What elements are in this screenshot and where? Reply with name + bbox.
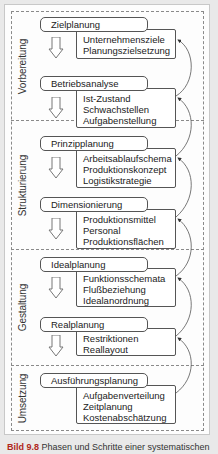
down-arrow-icon [48,335,64,357]
step-idealplanung: Idealplanung [40,257,148,272]
step-zielplanung: Zielplanung [40,17,148,32]
phase-label-gestaltung: Gestaltung [12,250,34,365]
phase-divider [11,249,204,250]
figure-caption: Bild 9.8 Phasen und Schritte einer syste… [7,442,210,452]
down-arrow-icon [48,218,64,240]
step-dimensionierung: Dimensionierung [40,197,148,212]
step-details-betriebsanalyse: Ist-Zustand Schwachstellen Aufgabenstell… [76,88,176,128]
step-details-dimensionierung: Produktionsmittel Personal Produktionsfl… [76,209,176,249]
down-arrow-icon [48,157,64,179]
down-arrow-icon [48,97,64,119]
step-details-realplanung: Restriktionen Reallayout [76,328,176,356]
step-details-zielplanung: Unternehmensziele Planungszielsetzung [76,29,176,59]
down-arrow-icon [48,277,64,299]
step-details-prinzipplanung: Arbeitsablaufschema Produktionskonzept L… [76,148,176,188]
step-realplanung: Realplanung [40,317,148,332]
step-details-idealplanung: Funktionsschemata Flußbeziehung Idealano… [76,268,176,307]
step-ausfuehrungsplanung: Ausführungsplanung [40,373,148,388]
phase-label-strukturierung: Strukturierung [12,121,34,249]
step-prinzipplanung: Prinzipplanung [40,136,148,151]
caption-text: Phasen und Schritte einer systematischen [42,442,210,452]
phase-label-umsetzung: Umsetzung [12,366,34,430]
step-betriebsanalyse: Betriebsanalyse [40,76,148,91]
down-arrow-icon [48,37,64,59]
phase-divider [11,365,204,366]
caption-label: Bild 9.8 [7,442,39,452]
step-details-ausfuehrungsplanung: Aufgabenverteilung Zeitplanung Kostenabs… [76,385,176,424]
phase-label-vorbereitung: Vorbereitung [12,12,34,120]
